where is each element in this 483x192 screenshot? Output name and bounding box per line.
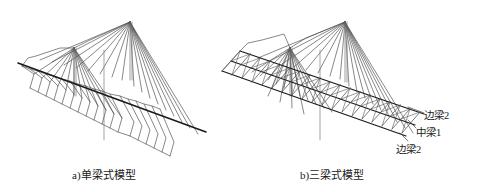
bridge-model-figure: a)单梁式模型 b)三梁式模型 边梁2 中梁1 边梁2: [0, 0, 483, 192]
model-b-deck-bracing: [231, 51, 420, 133]
label-center-beam: 中梁1: [416, 124, 441, 139]
model-a-cables-pylon2: [40, 22, 198, 134]
caption-model-b: b)三梁式模型: [300, 166, 364, 182]
edge-beam-2-top: [240, 51, 424, 114]
label-edge-beam-top: 边梁2: [424, 107, 449, 122]
caption-model-a: a)单梁式模型: [72, 166, 136, 182]
bridge-models-svg: [0, 0, 483, 192]
model-b-group: [222, 22, 424, 141]
center-beam-1: [231, 61, 415, 125]
model-a-cross-arms: [22, 66, 174, 156]
label-edge-beam-bottom: 边梁2: [396, 141, 421, 156]
model-b-outline: [222, 22, 345, 71]
model-a-group: [18, 22, 206, 156]
